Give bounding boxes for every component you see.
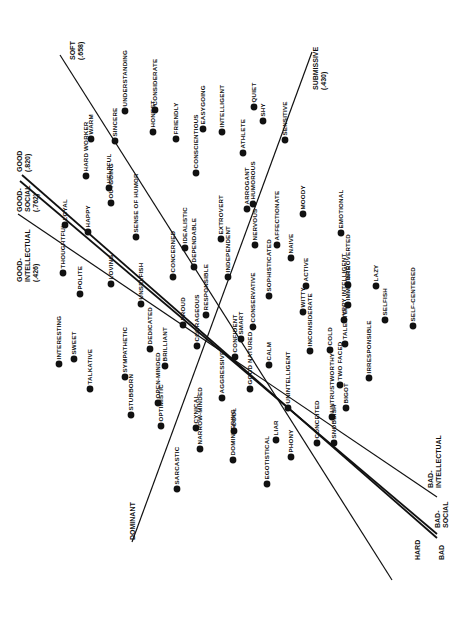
good-intellectual-label: GOOD-: [16, 258, 23, 282]
trait-point: INTELLIGENT: [218, 85, 225, 136]
bad-label: BAD: [438, 545, 445, 560]
point-label: SELFISH: [381, 288, 388, 316]
point-marker: [108, 200, 115, 207]
trait-point: SENSE OF HUMOR: [132, 173, 139, 240]
point-label: PROUD: [179, 297, 186, 321]
trait-point: STUBBORN: [127, 374, 134, 419]
point-marker: [71, 356, 78, 363]
point-marker: [182, 245, 189, 252]
good-intellectual-label: (.426): [32, 264, 40, 282]
trait-point: DOMINEERING: [229, 409, 236, 463]
trait-point: SHY: [259, 103, 266, 125]
axis-lines: [18, 52, 437, 580]
point-marker: [122, 108, 129, 115]
hard-label: HARD: [414, 540, 421, 560]
point-marker: [194, 343, 201, 350]
trait-point: SINCERE: [111, 108, 118, 145]
trait-diagram: UNDERSTANDINGWARMSINCEREHARD WORKERHELPF…: [0, 0, 453, 619]
point-marker: [128, 412, 135, 419]
point-label: LAZY: [372, 264, 379, 282]
point-marker: [382, 317, 389, 324]
point-label: UNINTELLIGENT: [284, 351, 291, 403]
point-label: SYMPATHETIC: [121, 327, 128, 373]
point-label: INDEPENDENT: [224, 226, 231, 273]
point-marker: [112, 138, 119, 145]
point-label: EASYGOING: [199, 85, 206, 124]
point-label: HUMOROUS: [249, 161, 256, 199]
point-label: EMOTIONAL: [337, 190, 344, 229]
point-label: SELF-CENTERED: [409, 267, 416, 322]
point-marker: [230, 457, 237, 464]
point-label: TALENTED: [341, 305, 348, 339]
point-marker: [85, 229, 92, 236]
point-marker: [343, 405, 350, 412]
point-label: SHY: [259, 103, 266, 117]
point-label: ATHLETE: [239, 119, 246, 148]
trait-point: TALKATIVE: [86, 349, 93, 393]
trait-point: CONSERVATIVE: [249, 272, 256, 330]
trait-point: RESPONSIBLE: [202, 264, 209, 318]
trait-point: TALENTED: [341, 305, 348, 347]
trait-point: SWEET: [70, 331, 77, 362]
good-intellectual-label: INTELLECTUAL: [24, 228, 31, 282]
point-marker: [266, 293, 273, 300]
point-label: FRIENDLY: [172, 102, 179, 135]
trait-point: NARROW-MINDED: [196, 387, 203, 453]
trait-point: HONEST: [149, 100, 156, 135]
point-marker: [87, 386, 94, 393]
trait-point: CONCEITED: [313, 400, 320, 446]
point-label: SINCERE: [111, 108, 118, 137]
point-marker: [252, 242, 259, 249]
point-label: BIGOT: [342, 383, 349, 404]
point-label: SENSITIVE: [281, 101, 288, 135]
point-marker: [197, 446, 204, 453]
bad-social-label: SOCIAL: [442, 501, 449, 528]
trait-point: LAZY: [372, 264, 379, 290]
point-marker: [158, 423, 165, 430]
point-marker: [203, 312, 210, 319]
trait-point: CALM: [265, 342, 272, 369]
point-marker: [410, 323, 417, 330]
trait-point: HUMOROUS: [249, 161, 256, 207]
point-marker: [138, 301, 145, 308]
point-label: CONCERNED: [169, 230, 176, 272]
point-marker: [170, 274, 177, 281]
trait-point: ACTIVE: [302, 258, 309, 290]
point-label: INTELLIGENT: [218, 85, 225, 128]
point-label: NAIVE: [287, 234, 294, 254]
trait-point: DEPENDABLE: [190, 218, 197, 271]
good-social-label: SOCIAL: [24, 185, 31, 212]
trait-point: FRIENDLY: [172, 102, 179, 143]
trait-point: COLD: [326, 327, 333, 354]
point-label: CONSCIENTIOUS: [192, 114, 199, 168]
point-marker: [260, 118, 267, 125]
bad-social-label: BAD-: [434, 510, 441, 528]
trait-point: UNINTELLIGENT: [284, 351, 291, 411]
trait-point: LOVING: [107, 255, 114, 288]
trait-point: INCONSIDERATE: [306, 293, 313, 354]
point-label: COLD: [326, 327, 333, 346]
point-marker: [180, 322, 187, 329]
point-marker: [225, 274, 232, 281]
submissive-label: (.430): [320, 72, 328, 90]
point-marker: [244, 206, 251, 213]
point-label: AGGRESSIVE: [218, 351, 225, 394]
trait-point: EMOTIONAL: [337, 190, 344, 237]
point-marker: [147, 346, 154, 353]
point-label: DOMINEERING: [229, 409, 236, 456]
soft-label: SOFT: [69, 41, 76, 60]
point-marker: [250, 324, 257, 331]
trait-point: NAIVE: [287, 234, 294, 262]
point-marker: [60, 270, 67, 277]
point-marker: [250, 201, 257, 208]
bad-intellectual-label: INTELLECTUAL: [435, 434, 442, 488]
trait-point: UNSELFISH: [137, 262, 144, 307]
point-label: UNDERSTANDING: [121, 50, 128, 106]
good-label: (.820): [24, 154, 32, 172]
point-marker: [193, 170, 200, 177]
point-marker: [238, 336, 245, 343]
point-marker: [240, 150, 247, 157]
point-label: CONSERVATIVE: [249, 272, 256, 322]
trait-point: SELFISH: [381, 288, 388, 324]
point-label: THOUGHTFUL: [59, 224, 66, 269]
